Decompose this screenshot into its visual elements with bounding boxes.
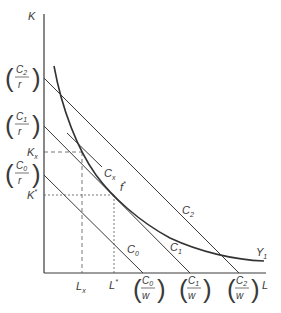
isocost-c0 [44,175,143,273]
y1-label: Y1 [256,246,267,260]
svg-text:C1: C1 [188,275,199,287]
svg-text:(: ( [5,110,14,140]
intercept-c2-over-w: ( ) C2 w [227,274,260,304]
svg-text:): ) [32,110,41,140]
c2-label: C2 [182,204,194,218]
svg-text:(: ( [133,274,142,304]
svg-text:(: ( [5,63,14,93]
svg-text:w: w [236,290,244,301]
intercept-c1-over-r: ( ) C1 r [5,110,41,140]
fstar-label: f* [120,180,126,193]
lx-label: Lx [76,280,86,294]
kx-label: Kx [27,146,38,160]
svg-text:w: w [188,290,196,301]
svg-text:r: r [18,126,22,137]
intercept-c1-over-w: ( ) C1 w [179,274,212,304]
lstar-label: L* [109,278,118,291]
svg-text:): ) [157,274,166,304]
svg-text:): ) [32,159,41,189]
l-axis-label: L [262,279,268,291]
kstar-label: K* [27,188,37,201]
svg-text:): ) [32,63,41,93]
svg-text:w: w [142,290,150,301]
svg-text:r: r [18,175,22,186]
svg-text:(: ( [179,274,188,304]
svg-text:): ) [203,274,212,304]
intercept-c0-over-w: ( ) C0 w [133,274,166,304]
svg-text:(: ( [227,274,236,304]
isocost-c2 [44,78,239,273]
cx-label: Cx [104,167,116,181]
svg-text:(: ( [5,159,14,189]
k-axis-label: K [28,10,36,22]
svg-text:r: r [18,79,22,90]
isocost-cx [67,133,102,167]
isoquant-y1 [54,66,264,261]
svg-text:C2: C2 [16,64,27,76]
intercept-c2-over-r: ( ) C2 r [5,63,41,93]
isoquant-diagram: K L ( ) C2 r ( ) C1 r ( ) C0 r Kx K* Lx … [0,0,281,313]
svg-text:C2: C2 [236,275,247,287]
svg-text:): ) [251,274,260,304]
intercept-c0-over-r: ( ) C0 r [5,159,41,189]
c0-label: C0 [127,243,139,257]
svg-text:C0: C0 [16,160,27,172]
svg-text:C0: C0 [142,275,153,287]
svg-text:C1: C1 [16,111,27,123]
